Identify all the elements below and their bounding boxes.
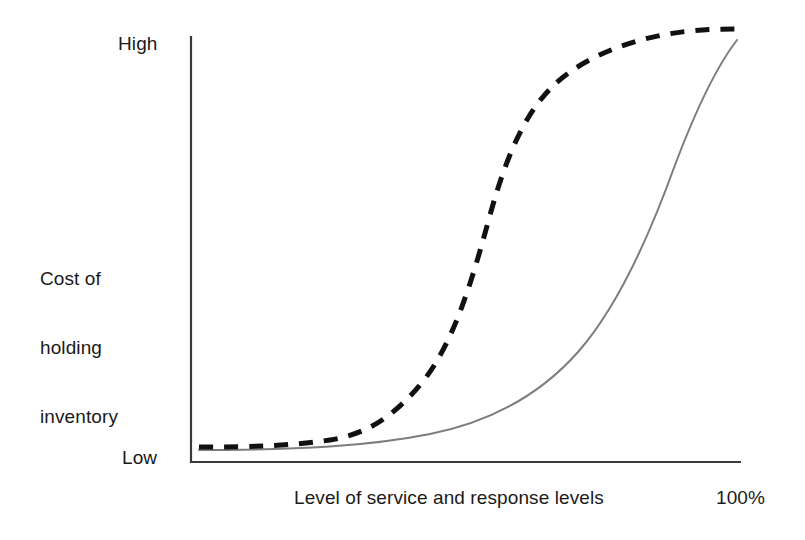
series-line-low-responsiveness bbox=[199, 40, 737, 450]
y-axis-title-line-1: Cost of bbox=[40, 267, 118, 290]
x-axis-title: Level of service and response levels bbox=[294, 486, 604, 509]
y-axis-title-line-3: inventory bbox=[40, 405, 118, 428]
chart-plot-area bbox=[0, 0, 805, 540]
y-axis-min-label: Low bbox=[122, 446, 157, 469]
chart-figure: High Low Cost of holding inventory Level… bbox=[0, 0, 805, 540]
series-line-high-responsiveness bbox=[199, 29, 736, 447]
y-axis-max-label: High bbox=[118, 32, 157, 55]
y-axis-title: Cost of holding inventory bbox=[40, 221, 118, 474]
x-axis-max-label: 100% bbox=[716, 486, 765, 509]
y-axis-title-line-2: holding bbox=[40, 336, 118, 359]
